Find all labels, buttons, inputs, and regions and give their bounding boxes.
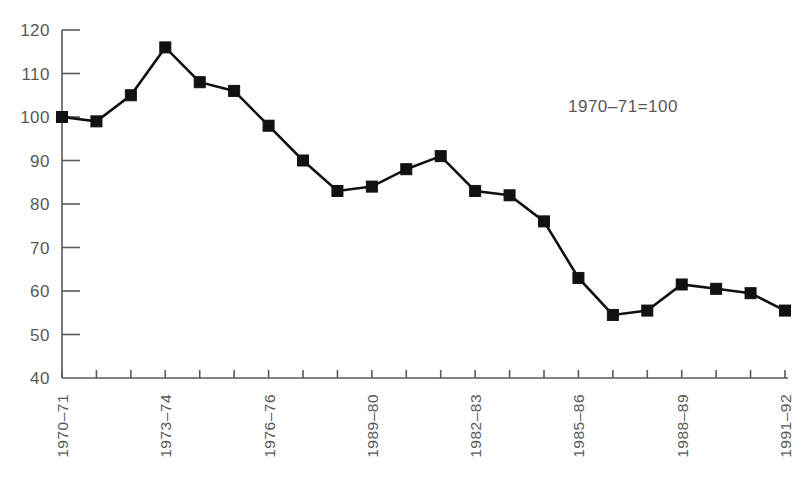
data-point-marker [298,155,309,166]
data-point-marker [642,305,653,316]
data-point-marker [504,190,515,201]
data-point-marker [607,309,618,320]
x-tick-label: 1988–89 [674,394,691,458]
y-tick-label: 100 [20,108,50,127]
data-point-marker [573,272,584,283]
x-tick-label: 1982–83 [467,394,484,458]
index-base-annotation: 1970–71=100 [568,97,678,116]
data-point-marker [711,283,722,294]
data-point-marker [263,120,274,131]
y-tick-label: 80 [30,195,50,214]
x-tick-label: 1985–86 [570,394,587,458]
y-tick-label: 50 [30,326,50,345]
y-tick-label: 110 [21,65,50,84]
data-point-marker [57,112,68,123]
x-tick-label: 1989–80 [364,394,381,458]
y-tick-label: 120 [20,21,50,40]
y-tick-label: 90 [30,152,50,171]
data-point-marker [160,42,171,53]
data-point-marker [435,151,446,162]
data-point-marker [780,305,791,316]
x-tick-label: 1973–74 [157,394,174,458]
data-point-marker [676,279,687,290]
x-tick-label: 1970–71 [54,394,71,458]
y-tick-label: 40 [30,369,50,388]
data-point-marker [91,116,102,127]
data-point-marker [125,90,136,101]
data-point-marker [401,164,412,175]
line-chart: 405060708090100110120 1970–711973–741976… [0,0,804,478]
data-point-marker [470,185,481,196]
x-tick-label: 1991–92 [777,394,794,458]
x-tick-label: 1976–76 [261,394,278,458]
y-tick-label: 60 [30,282,50,301]
data-point-marker [745,288,756,299]
y-tick-label: 70 [30,239,50,258]
data-point-marker [366,181,377,192]
chart-container: 405060708090100110120 1970–711973–741976… [0,0,804,478]
data-point-marker [194,77,205,88]
data-point-marker [229,85,240,96]
data-point-marker [332,185,343,196]
data-point-marker [539,216,550,227]
